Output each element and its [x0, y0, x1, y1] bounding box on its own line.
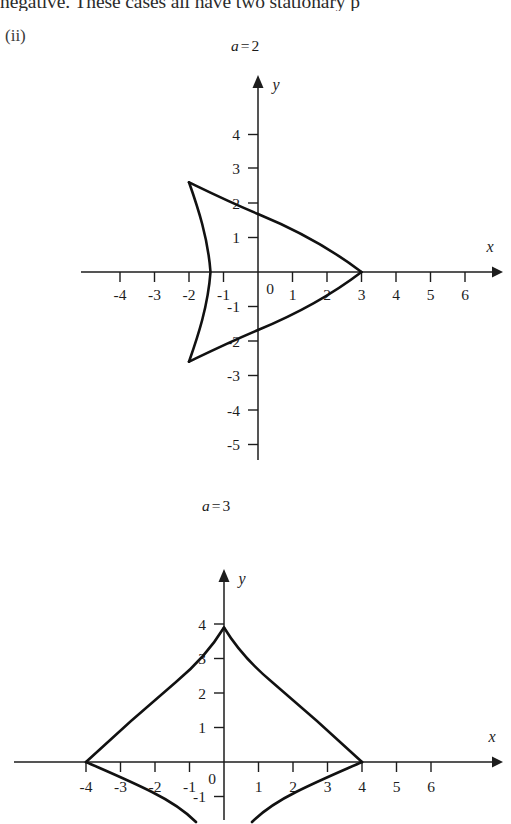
- figure-a2-plot: -4 -3 -2 -1 1 2 3 4 5 6 4 3 2 1 -1 -2 -3…: [0, 60, 511, 465]
- figure-a3-origin-label: 0: [208, 770, 216, 787]
- y-tick-label: -4: [227, 402, 240, 419]
- figure-a2-y-ticks: [248, 135, 258, 445]
- x-tick-label: -3: [148, 286, 161, 303]
- y-tick-label: -1: [193, 788, 206, 805]
- figure-a2-x-ticks: [120, 272, 465, 282]
- x-tick-label: 6: [427, 778, 435, 795]
- x-tick-label: 5: [427, 286, 435, 303]
- x-tick-label: -4: [114, 286, 127, 303]
- y-tick-label: -1: [227, 298, 240, 315]
- figure-a2-svg: -4 -3 -2 -1 1 2 3 4 5 6 4 3 2 1 -1 -2 -3…: [0, 60, 511, 465]
- figure-a2-x-ticklabels: -4 -3 -2 -1 1 2 3 4 5 6: [114, 286, 470, 303]
- x-tick-label: 1: [289, 286, 297, 303]
- page-root: negative. These cases all have two stati…: [0, 0, 511, 824]
- figure-a3-title-eq: =: [212, 497, 221, 514]
- y-tick-label: 4: [232, 126, 240, 143]
- figure-a2-title-eq: =: [241, 37, 250, 54]
- x-tick-label: 5: [393, 778, 401, 795]
- figure-a3-y-axis: [219, 569, 230, 820]
- figure-a2-origin-label: 0: [266, 280, 274, 297]
- figure-a3-title: a=3: [202, 497, 230, 515]
- figure-a3-x-axis-label: x: [487, 728, 495, 745]
- y-tick-label: 3: [232, 160, 240, 177]
- figure-a3-curve-upper-right: [224, 628, 362, 763]
- figure-a3-x-ticks: [86, 762, 431, 772]
- figure-a2-curve-upper-outer: [189, 182, 362, 272]
- y-tick-label: -5: [227, 436, 240, 453]
- figure-a3-plot: -4 -3 -2 -1 1 2 3 4 5 6 4 3 2 1 -1 0: [0, 520, 511, 824]
- x-tick-label: 3: [358, 286, 366, 303]
- x-tick-label: 4: [358, 778, 366, 795]
- x-tick-label: -2: [183, 286, 196, 303]
- figure-a3-title-value: 3: [223, 497, 231, 514]
- figure-a3-curve-lower-right: [252, 762, 362, 822]
- y-tick-label: -3: [227, 367, 240, 384]
- figure-a2-title-value: 2: [252, 37, 260, 54]
- figure-a2-curve-lower-outer: [189, 272, 362, 362]
- x-tick-label: -4: [80, 778, 93, 795]
- x-tick-label: 6: [461, 286, 469, 303]
- figure-a2-title-var: a: [231, 37, 239, 54]
- y-tick-label: 1: [198, 719, 206, 736]
- figure-a3-svg: -4 -3 -2 -1 1 2 3 4 5 6 4 3 2 1 -1 0: [0, 520, 511, 824]
- y-tick-label: 4: [198, 616, 206, 633]
- running-text-cutoff: negative. These cases all have two stati…: [0, 0, 511, 11]
- figure-a3-title-var: a: [202, 497, 210, 514]
- x-tick-label: 1: [255, 778, 263, 795]
- figure-a2-y-axis-label: y: [270, 76, 280, 94]
- figure-a2-x-axis-label: x: [485, 238, 493, 255]
- figure-a3-curve-lower-left: [86, 762, 196, 822]
- figure-a3-x-ticklabels: -4 -3 -2 -1 1 2 3 4 5 6: [80, 778, 436, 795]
- figure-a2-title: a=2: [231, 37, 259, 55]
- figure-a3-y-axis-label: y: [236, 570, 246, 588]
- x-tick-label: 3: [324, 778, 332, 795]
- part-label: (ii): [5, 26, 26, 46]
- y-tick-label: 2: [198, 685, 206, 702]
- x-tick-label: 4: [392, 286, 400, 303]
- figure-a2-y-axis: [253, 75, 264, 460]
- figure-a3-y-ticklabels: 4 3 2 1 -1: [193, 616, 206, 806]
- y-tick-label: 1: [232, 229, 240, 246]
